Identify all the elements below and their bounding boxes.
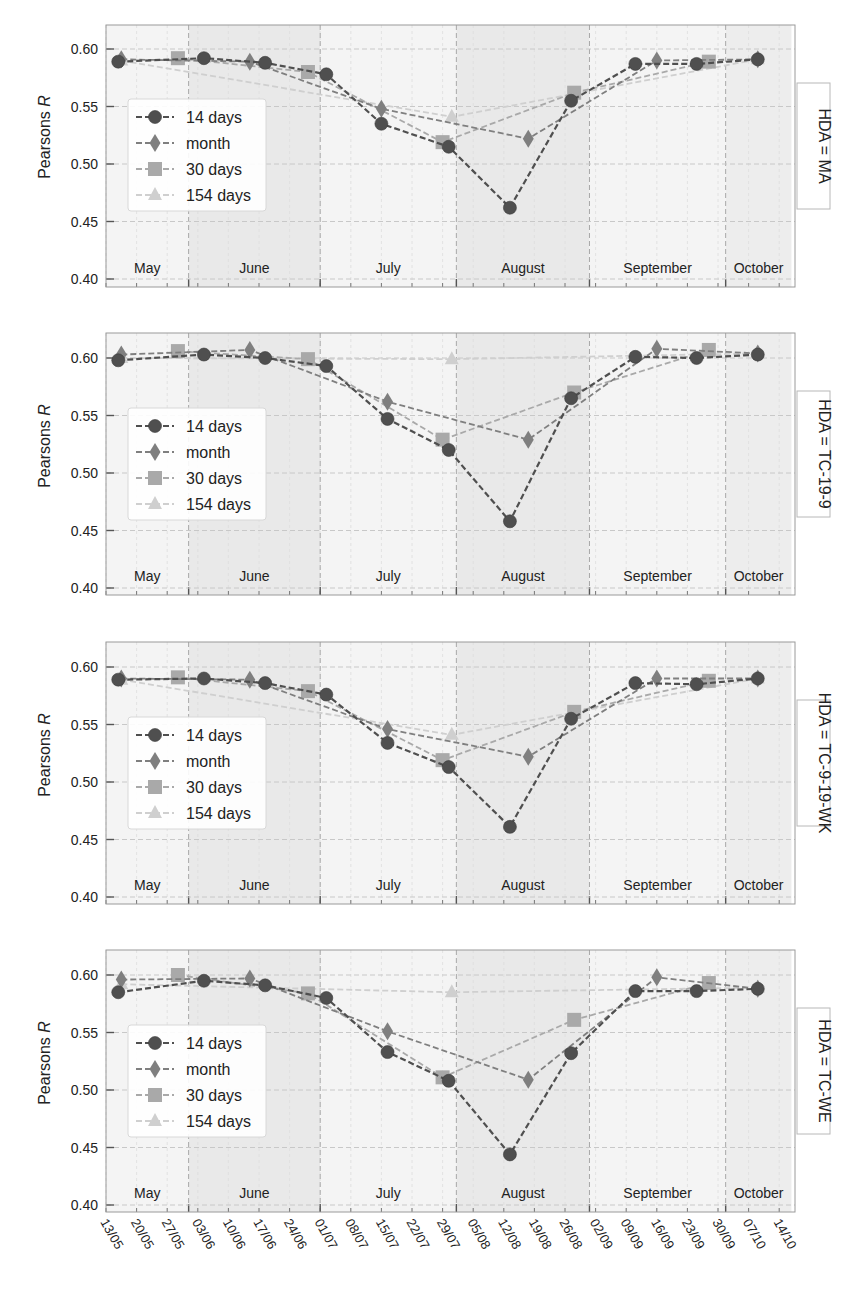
month-label: June: [239, 1185, 270, 1201]
circle-marker-icon: [442, 444, 455, 457]
month-band-august: [456, 333, 589, 595]
month-label: July: [376, 877, 401, 893]
month-label: July: [376, 1185, 401, 1201]
circle-marker-icon: [751, 672, 764, 685]
month-label: October: [734, 1185, 784, 1201]
circle-marker-icon: [197, 348, 210, 361]
facet-label: HDA = TC-WE: [816, 1019, 833, 1122]
circle-marker-icon: [442, 1074, 455, 1087]
circle-marker-icon: [381, 736, 394, 749]
month-label: August: [501, 260, 545, 276]
panel-2: 0.400.450.500.550.60MayJuneJulyAugustSep…: [36, 333, 833, 596]
y-axis-label: Pearsons R: [36, 1021, 53, 1105]
legend-label: 14 days: [186, 1035, 242, 1052]
y-tick-label: 0.55: [71, 99, 98, 115]
circle-marker-icon: [690, 678, 703, 691]
circle-marker-icon: [381, 412, 394, 425]
y-tick-label: 0.50: [71, 774, 98, 790]
circle-marker-icon: [565, 1047, 578, 1060]
legend-label: 30 days: [186, 779, 242, 796]
legend-label: 30 days: [186, 470, 242, 487]
square-marker-icon: [171, 670, 185, 684]
circle-marker-icon: [197, 672, 210, 685]
legend-label: month: [186, 753, 230, 770]
circle-marker-icon: [149, 420, 162, 433]
month-band-july: [320, 25, 456, 287]
month-label: October: [734, 260, 784, 276]
month-label: September: [623, 877, 692, 893]
x-tick-label: 19/08: [526, 1216, 555, 1252]
month-label: May: [134, 877, 160, 893]
x-tick-label: 09/09: [618, 1216, 647, 1252]
circle-marker-icon: [629, 677, 642, 690]
circle-marker-icon: [690, 352, 703, 365]
panel-4: 0.400.450.500.550.60MayJuneJulyAugustSep…: [36, 950, 833, 1213]
month-label: June: [239, 568, 270, 584]
circle-marker-icon: [503, 820, 516, 833]
legend: 14 daysmonth30 days154 days: [128, 717, 266, 829]
x-tick-label: 29/07: [434, 1216, 463, 1252]
legend-label: 14 days: [186, 727, 242, 744]
facet-label: HDA = MA: [816, 108, 833, 183]
square-marker-icon: [148, 162, 162, 176]
facet-label: HDA = TC-19-9: [816, 399, 833, 509]
month-band-july: [320, 642, 456, 904]
circle-marker-icon: [112, 673, 125, 686]
y-tick-label: 0.55: [71, 1025, 98, 1041]
legend-label: 154 days: [186, 496, 251, 513]
panel-3: 0.400.450.500.550.60MayJuneJulyAugustSep…: [36, 642, 833, 905]
circle-marker-icon: [629, 985, 642, 998]
month-band-july: [320, 333, 456, 595]
circle-marker-icon: [565, 94, 578, 107]
circle-marker-icon: [690, 985, 703, 998]
circle-marker-icon: [259, 352, 272, 365]
x-tick-label: 05/08: [465, 1216, 494, 1252]
y-tick-label: 0.40: [71, 271, 98, 287]
figure-canvas: 0.400.450.500.550.60MayJuneJulyAugustSep…: [0, 0, 856, 1289]
circle-marker-icon: [320, 992, 333, 1005]
square-marker-icon: [301, 65, 315, 79]
circle-marker-icon: [197, 52, 210, 65]
y-tick-label: 0.50: [71, 1082, 98, 1098]
month-label: August: [501, 1185, 545, 1201]
month-label: October: [734, 877, 784, 893]
legend-label: 30 days: [186, 1087, 242, 1104]
x-tick-label: 22/07: [403, 1216, 432, 1252]
facet-label: HDA = TC-9-19-WK: [816, 693, 833, 834]
x-tick-label: 30/09: [709, 1216, 738, 1252]
square-marker-icon: [567, 1013, 581, 1027]
circle-marker-icon: [259, 979, 272, 992]
y-tick-label: 0.60: [71, 659, 98, 675]
legend-label: month: [186, 444, 230, 461]
x-tick-label: 24/06: [281, 1216, 310, 1252]
circle-marker-icon: [149, 111, 162, 124]
circle-marker-icon: [565, 392, 578, 405]
legend-label: 30 days: [186, 161, 242, 178]
x-tick-label: 13/05: [97, 1216, 126, 1252]
month-label: October: [734, 568, 784, 584]
x-tick-label: 12/08: [495, 1216, 524, 1252]
circle-marker-icon: [751, 53, 764, 66]
circle-marker-icon: [259, 677, 272, 690]
legend: 14 daysmonth30 days154 days: [128, 99, 266, 211]
month-label: July: [376, 568, 401, 584]
y-tick-label: 0.55: [71, 408, 98, 424]
month-label: August: [501, 568, 545, 584]
legend-label: 14 days: [186, 418, 242, 435]
y-tick-label: 0.60: [71, 350, 98, 366]
y-axis-label: Pearsons R: [36, 713, 53, 797]
legend: 14 daysmonth30 days154 days: [128, 1025, 266, 1137]
circle-marker-icon: [565, 712, 578, 725]
circle-marker-icon: [690, 57, 703, 70]
square-marker-icon: [148, 471, 162, 485]
circle-marker-icon: [320, 688, 333, 701]
square-marker-icon: [702, 343, 716, 357]
y-tick-label: 0.45: [71, 523, 98, 539]
legend-label: 14 days: [186, 109, 242, 126]
legend-label: 154 days: [186, 805, 251, 822]
y-tick-label: 0.45: [71, 1140, 98, 1156]
month-label: June: [239, 260, 270, 276]
y-tick-label: 0.40: [71, 580, 98, 596]
circle-marker-icon: [629, 350, 642, 363]
square-marker-icon: [148, 1088, 162, 1102]
